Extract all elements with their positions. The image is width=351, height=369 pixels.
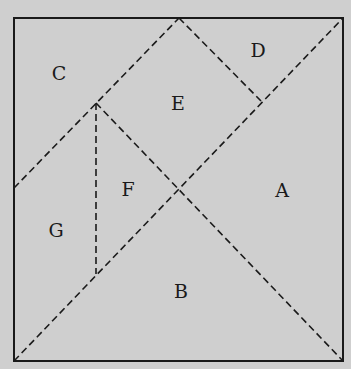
piece-label-e: E bbox=[171, 92, 185, 114]
dashed-line-3 bbox=[179, 18, 261, 101]
piece-label-d: D bbox=[250, 39, 265, 61]
piece-label-c: C bbox=[52, 62, 67, 84]
piece-label-f: F bbox=[121, 178, 134, 200]
diagram-canvas: A B C D E F G bbox=[0, 0, 351, 369]
piece-label-a: A bbox=[274, 179, 289, 201]
piece-label-g: G bbox=[48, 219, 63, 241]
piece-labels: A B C D E F G bbox=[48, 39, 289, 302]
piece-label-b: B bbox=[174, 280, 188, 302]
dashed-line-4 bbox=[96, 103, 343, 361]
tangram-diagram: A B C D E F G bbox=[0, 0, 351, 369]
